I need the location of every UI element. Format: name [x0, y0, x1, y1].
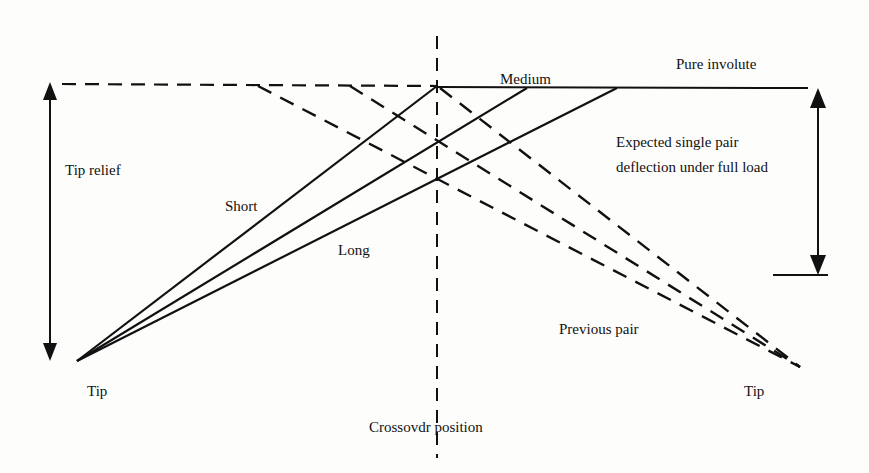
- arrow-down-icon: [43, 343, 57, 361]
- long-label: Long: [338, 241, 370, 259]
- arrow-up-icon: [810, 88, 826, 108]
- tip-relief-arrow: [43, 82, 57, 361]
- relief-profiles: [77, 86, 617, 361]
- expected-deflection-label-line1: Expected single pair: [616, 133, 738, 151]
- short-relief-line: [77, 86, 437, 361]
- expected-deflection-label-line2: deflection under full load: [616, 158, 768, 176]
- medium-relief-line: [77, 88, 527, 361]
- arrow-down-icon: [810, 255, 826, 275]
- deflection-arrow: [773, 88, 828, 275]
- tip-relief-diagram: Tip relief Short Medium Long Pure involu…: [0, 0, 869, 473]
- previous-pair-long-line: [258, 86, 800, 367]
- tip-right-label: Tip: [744, 382, 764, 400]
- tip-relief-reference-line: [62, 84, 437, 86]
- pure-involute-line: [437, 87, 808, 88]
- previous-pair-label: Previous pair: [559, 320, 639, 338]
- arrow-up-icon: [43, 82, 57, 100]
- pure-involute-label: Pure involute: [676, 55, 756, 73]
- tip-left-label: Tip: [87, 382, 107, 400]
- tip-relief-label: Tip relief: [65, 161, 121, 179]
- long-relief-line: [77, 88, 617, 361]
- previous-pair-lines: [258, 86, 800, 367]
- crossover-position-label: Crossovdr position: [369, 418, 483, 436]
- short-label: Short: [225, 197, 258, 215]
- medium-label: Medium: [500, 70, 551, 88]
